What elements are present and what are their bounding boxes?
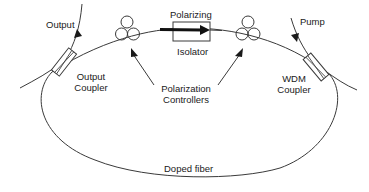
doped-fiber-label: Doped fiber xyxy=(164,163,213,174)
polarization-controller-left xyxy=(116,16,140,40)
output-coupler-label-line2: Coupler xyxy=(70,82,112,93)
polarizing-label: Polarizing xyxy=(170,9,212,20)
output-label: Output xyxy=(46,19,75,30)
wdm-coupler-label-line1: WDM xyxy=(273,73,315,84)
wdm-right-fiber xyxy=(324,70,357,90)
polarization-controllers-label: Polarization Controllers xyxy=(156,83,216,105)
wdm-coupler-label-line2: Coupler xyxy=(273,84,315,95)
pc-left-pointer-arrow-icon xyxy=(131,48,138,57)
wdm-coupler-label: WDM Coupler xyxy=(273,73,315,95)
pump-label: Pump xyxy=(300,16,325,27)
polarizing-isolator xyxy=(160,22,222,41)
pc-left-pointer-line xyxy=(133,54,154,85)
pump-arrow-icon xyxy=(291,33,299,42)
isolator-label: Isolator xyxy=(177,46,208,57)
polarization-controller-right xyxy=(236,16,260,40)
pc-right-pointer-line xyxy=(218,54,240,85)
pc-right-pointer-arrow-icon xyxy=(235,48,243,57)
output-coupler-label: Output Coupler xyxy=(70,71,112,93)
polarization-controllers-label-line2: Controllers xyxy=(156,94,216,105)
polarization-controllers-label-line1: Polarization xyxy=(156,83,216,94)
output-coupler-label-line1: Output xyxy=(70,71,112,82)
